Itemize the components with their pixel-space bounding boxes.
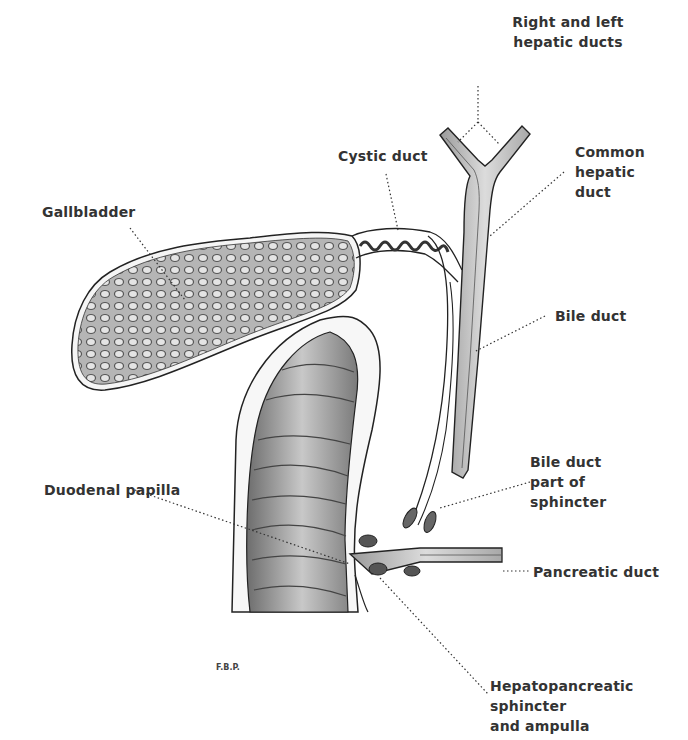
label-bile-duct-part-of-sphincter: Bile duct part of sphincter <box>530 452 606 512</box>
label-line: Hepatopancreatic <box>490 676 634 696</box>
label-bile-duct: Bile duct <box>555 306 626 326</box>
label-line: Bile duct <box>530 452 606 472</box>
label-line: duct <box>575 182 645 202</box>
artist-signature: F.B.P. <box>216 663 240 672</box>
label-line: Right and left <box>508 12 628 32</box>
label-hepatopancreatic-sphincter-ampulla: Hepatopancreatic sphincter and ampulla <box>490 676 634 736</box>
anatomy-illustration <box>0 0 688 740</box>
label-line: Common <box>575 142 645 162</box>
label-line: part of <box>530 472 606 492</box>
label-pancreatic-duct: Pancreatic duct <box>533 562 659 582</box>
label-common-hepatic-duct: Common hepatic duct <box>575 142 645 202</box>
label-line: sphincter <box>490 696 634 716</box>
label-cystic-duct: Cystic duct <box>338 146 428 166</box>
label-line: hepatic ducts <box>508 32 628 52</box>
label-duodenal-papilla: Duodenal papilla <box>44 480 180 500</box>
duodenum-shape <box>232 316 380 612</box>
label-gallbladder: Gallbladder <box>42 202 135 222</box>
pancreatic-duct-shape <box>350 506 502 612</box>
bile-duct-system <box>412 126 530 525</box>
label-line: sphincter <box>530 492 606 512</box>
label-line: hepatic <box>575 162 645 182</box>
label-right-left-hepatic-ducts: Right and left hepatic ducts <box>508 12 628 52</box>
label-line: and ampulla <box>490 716 634 736</box>
